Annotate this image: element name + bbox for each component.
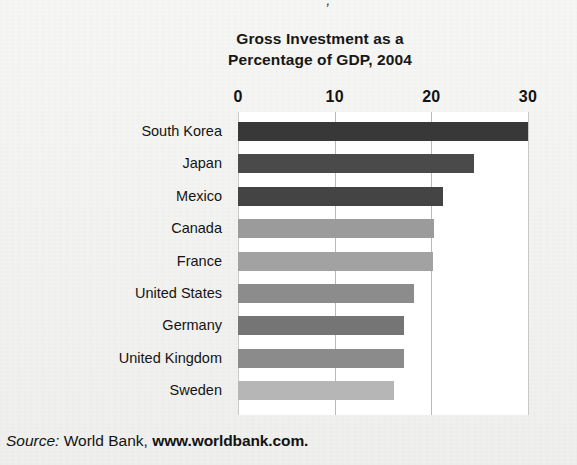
source-url[interactable]: www.worldbank.com. [152,432,308,449]
source-label: Source: [6,432,59,449]
category-label-sweden: Sweden [0,381,230,400]
category-label-japan: Japan [0,154,230,173]
category-axis-labels: South KoreaJapanMexicoCanadaFranceUnited… [0,0,577,465]
category-label-mexico: Mexico [0,187,230,206]
category-label-canada: Canada [0,219,230,238]
category-label-united-states: United States [0,284,230,303]
category-label-south-korea: South Korea [0,122,230,141]
source-note: Source: World Bank, www.worldbank.com. [6,432,308,450]
chart-figure: “ “ , “ Gross Investment as a Percentage… [0,0,577,465]
category-label-france: France [0,252,230,271]
category-label-germany: Germany [0,316,230,335]
source-publisher: World Bank, [64,432,148,449]
category-label-united-kingdom: United Kingdom [0,349,230,368]
